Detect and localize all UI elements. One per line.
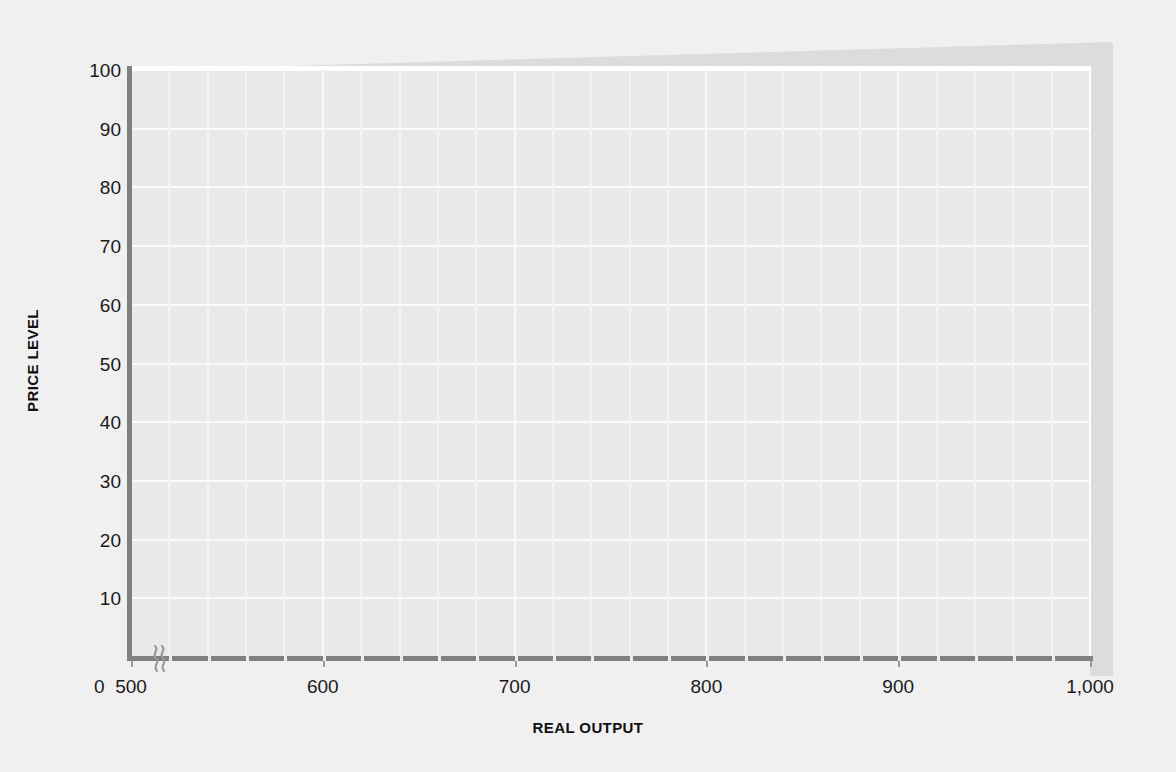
gridline-vertical — [629, 70, 631, 657]
x-axis-title: REAL OUTPUT — [0, 719, 1176, 736]
x-axis-major-tick — [515, 661, 517, 667]
plot-area — [131, 70, 1090, 657]
x-axis-tick-notch — [975, 656, 978, 661]
x-axis-tick-notch — [169, 656, 172, 661]
x-axis-origin-label: 0 — [94, 676, 105, 698]
x-axis-tick-notch — [1013, 656, 1016, 661]
y-axis-tick-label: 50 — [61, 355, 121, 374]
x-axis-line — [127, 656, 1093, 661]
x-axis-tick-notch — [630, 656, 633, 661]
gridline-vertical — [782, 70, 784, 657]
x-axis-tick-notch — [553, 656, 556, 661]
gridline-vertical — [820, 70, 822, 657]
x-axis-major-tick — [898, 661, 900, 667]
gridline-vertical — [1051, 70, 1053, 657]
y-axis-tick-label: 30 — [61, 472, 121, 491]
x-axis-tick-notch — [208, 656, 211, 661]
gridline-vertical — [744, 70, 746, 657]
gridline-vertical — [283, 70, 285, 657]
y-axis-tick-labels: 102030405060708090100 — [55, 0, 121, 772]
gridline-horizontal — [131, 597, 1090, 599]
gridline-horizontal — [131, 245, 1090, 247]
y-axis-line — [127, 66, 132, 661]
y-axis-tick-label: 40 — [61, 413, 121, 432]
x-axis-tick-notch — [400, 656, 403, 661]
x-axis-tick-notch — [476, 656, 479, 661]
x-axis-tick-notch — [937, 656, 940, 661]
x-axis-tick-notch — [591, 656, 594, 661]
plot-right-side-panel — [1090, 42, 1113, 676]
x-axis-tick-notch — [668, 656, 671, 661]
y-axis-tick-label: 80 — [61, 178, 121, 197]
gridline-vertical — [974, 70, 976, 657]
y-axis-tick-label: 10 — [61, 589, 121, 608]
x-axis-tick-notch — [246, 656, 249, 661]
x-axis-tick-label: 700 — [499, 676, 531, 698]
gridline-vertical — [667, 70, 669, 657]
gridline-vertical — [437, 70, 439, 657]
x-axis-major-tick — [1090, 661, 1092, 667]
gridline-horizontal — [131, 70, 1090, 71]
gridline-horizontal — [131, 480, 1090, 482]
x-axis-tick-notch — [860, 656, 863, 661]
gridline-vertical — [360, 70, 362, 657]
y-axis-tick-label: 60 — [61, 296, 121, 315]
x-axis-tick-label: 500 — [115, 676, 147, 698]
gridline-vertical — [1012, 70, 1014, 657]
x-axis-tick-notch — [821, 656, 824, 661]
x-axis-tick-notch — [745, 656, 748, 661]
gridline-horizontal — [131, 186, 1090, 188]
x-axis-tick-notch — [1052, 656, 1055, 661]
x-axis-major-tick — [323, 661, 325, 667]
x-axis-tick-label: 800 — [691, 676, 723, 698]
gridline-vertical — [590, 70, 592, 657]
gridline-horizontal — [131, 304, 1090, 306]
x-axis-tick-notch — [783, 656, 786, 661]
gridline-horizontal — [131, 363, 1090, 365]
gridline-vertical — [475, 70, 477, 657]
gridline-vertical — [1089, 70, 1090, 657]
y-axis-tick-label: 100 — [61, 61, 121, 80]
gridline-horizontal — [131, 421, 1090, 423]
gridline-vertical — [705, 70, 707, 657]
gridline-vertical — [399, 70, 401, 657]
x-axis-major-tick — [706, 661, 708, 667]
x-axis-major-tick — [131, 661, 133, 667]
gridline-vertical — [552, 70, 554, 657]
x-axis-tick-label: 1,000 — [1066, 676, 1114, 698]
x-axis-tick-notch — [284, 656, 287, 661]
chart-figure: 102030405060708090100 0 5006007008009001… — [0, 0, 1176, 772]
gridline-vertical — [322, 70, 324, 657]
y-axis-tick-label: 20 — [61, 531, 121, 550]
gridline-vertical — [514, 70, 516, 657]
gridline-vertical — [168, 70, 170, 657]
gridline-horizontal — [131, 128, 1090, 130]
y-axis-tick-label: 70 — [61, 237, 121, 256]
gridline-vertical — [859, 70, 861, 657]
gridline-vertical — [245, 70, 247, 657]
x-axis-tick-notch — [438, 656, 441, 661]
gridline-horizontal — [131, 539, 1090, 541]
x-axis-tick-label: 600 — [307, 676, 339, 698]
y-axis-title: PRICE LEVEL — [24, 281, 41, 441]
gridline-vertical — [936, 70, 938, 657]
y-axis-tick-label: 90 — [61, 120, 121, 139]
x-axis-tick-label: 900 — [882, 676, 914, 698]
gridline-vertical — [207, 70, 209, 657]
gridline-vertical — [897, 70, 899, 657]
x-axis-tick-notch — [361, 656, 364, 661]
